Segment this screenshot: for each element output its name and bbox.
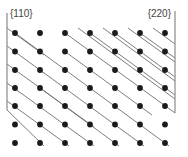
atom-dot — [37, 49, 43, 55]
atom-dot — [112, 140, 118, 146]
atom-dot — [87, 85, 93, 91]
atom-dot — [12, 85, 18, 91]
label-110: {110} — [10, 8, 33, 19]
atom-dot — [37, 122, 43, 128]
atom-dot — [87, 140, 93, 146]
atom-dot — [162, 122, 168, 128]
plane-line-220 — [90, 33, 175, 95]
atom-dot — [162, 140, 168, 146]
atom-dot — [62, 49, 68, 55]
atom-dot — [162, 103, 168, 109]
atom-dot — [12, 67, 18, 73]
atom-dot — [87, 49, 93, 55]
atom-dot — [162, 30, 168, 36]
atom-dot — [62, 103, 68, 109]
atom-dot — [137, 140, 143, 146]
plane-line-110 — [7, 83, 94, 146]
atom-dot — [87, 67, 93, 73]
plane-lines-220 — [65, 28, 175, 115]
atom-dot — [137, 49, 143, 55]
atom-dot — [37, 30, 43, 36]
atom-dot — [62, 85, 68, 91]
atom-dot — [112, 122, 118, 128]
atom-dot — [62, 67, 68, 73]
atom-dot — [12, 49, 18, 55]
atom-dot — [37, 103, 43, 109]
atom-dot — [137, 122, 143, 128]
plane-line-110 — [40, 88, 119, 146]
atom-dot — [137, 85, 143, 91]
label-220: {220} — [148, 8, 172, 19]
plane-line-220 — [140, 33, 175, 58]
atom-dot — [62, 30, 68, 36]
atom-dot — [112, 49, 118, 55]
atom-dot — [12, 122, 18, 128]
atom-dot — [12, 30, 18, 36]
atom-dot — [87, 122, 93, 128]
atom-dot — [112, 67, 118, 73]
atom-dot — [112, 103, 118, 109]
atom-dot — [12, 103, 18, 109]
atom-dot — [137, 67, 143, 73]
atom-dot — [162, 67, 168, 73]
atom-dot — [162, 49, 168, 55]
atom-dot — [87, 103, 93, 109]
atom-dot — [62, 122, 68, 128]
atom-dot — [137, 30, 143, 36]
atom-dot — [62, 140, 68, 146]
atom-dot — [37, 85, 43, 91]
plane-line-220 — [65, 33, 175, 113]
atom-dot — [37, 140, 43, 146]
atom-dot — [37, 67, 43, 73]
atom-dot — [112, 30, 118, 36]
atom-dot — [112, 85, 118, 91]
atom-dot — [137, 103, 143, 109]
atom-dot — [162, 85, 168, 91]
atom-dot — [87, 30, 93, 36]
plane-line-220 — [128, 28, 175, 62]
atom-dot — [12, 140, 18, 146]
crystal-plane-diagram: {110} {220} — [0, 0, 188, 157]
